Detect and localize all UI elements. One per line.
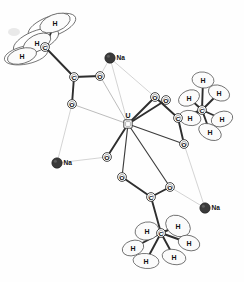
hydrogen-label: H (186, 95, 191, 102)
atom-c1: C (70, 73, 79, 82)
atom-label: O (70, 101, 75, 108)
atom-label: O (164, 97, 169, 104)
hydrogen-label: H (186, 240, 191, 247)
hydrogen-label: H (219, 116, 224, 123)
atom-label: Na (117, 54, 126, 61)
atom-label: Na (64, 159, 73, 166)
atom-label: O (98, 73, 103, 80)
atom-label: C (43, 44, 48, 51)
atom-label: C (72, 74, 77, 81)
atom-label: C (159, 230, 164, 237)
atom-c5: C (147, 193, 156, 202)
hydrogen-label: H (143, 258, 148, 265)
sodium-marker (105, 53, 115, 63)
hydrogen-label: H (207, 129, 212, 136)
sodium-highlight (54, 160, 57, 163)
atom-label: U (125, 112, 130, 119)
hydrogen-label: H (130, 245, 135, 252)
atom-label: O (153, 94, 158, 101)
hydrogen-label: H (144, 228, 149, 235)
atom-o2: O (68, 100, 77, 109)
atom-label: O (120, 174, 125, 181)
ortep-structure-figure: HHHHHHHHHHHHHHH UNaNaNaOOOOOOOOCCCCCC (0, 0, 244, 282)
hydrogen-label: H (200, 77, 205, 84)
atom-c6: C (157, 229, 166, 238)
atom-label: O (105, 154, 110, 161)
atom-o5: O (180, 140, 189, 149)
atom-o4: O (162, 96, 171, 105)
atom-o3: O (151, 93, 160, 102)
atom-c2: C (41, 43, 50, 52)
hydrogen-label: H (216, 90, 221, 97)
atom-label: C (149, 194, 154, 201)
uranium-marker (124, 120, 132, 128)
hydrogen-label: H (19, 53, 24, 60)
atom-c4: C (198, 106, 207, 115)
atom-o6: O (103, 153, 112, 162)
atom-o7: O (118, 173, 127, 182)
atom-c3: C (174, 114, 183, 123)
structure-canvas: HHHHHHHHHHHHHHH UNaNaNaOOOOOOOOCCCCCC (0, 0, 244, 282)
hydrogen-label: H (175, 223, 180, 230)
scan-artifact (8, 28, 20, 36)
hydrogen-label: H (52, 20, 57, 27)
atom-label: C (200, 107, 205, 114)
sodium-marker (200, 203, 210, 213)
sodium-marker (52, 158, 62, 168)
sodium-highlight (202, 205, 205, 208)
atom-o1: O (96, 72, 105, 81)
atom-label: Na (212, 204, 221, 211)
hydrogen-label: H (171, 254, 176, 261)
hydrogen-label: H (187, 115, 192, 122)
atom-label: O (182, 141, 187, 148)
atom-o8: O (166, 183, 175, 192)
sodium-highlight (107, 55, 110, 58)
atom-label: O (168, 184, 173, 191)
hydrogen-label: H (34, 40, 39, 47)
atom-label: C (176, 115, 181, 122)
